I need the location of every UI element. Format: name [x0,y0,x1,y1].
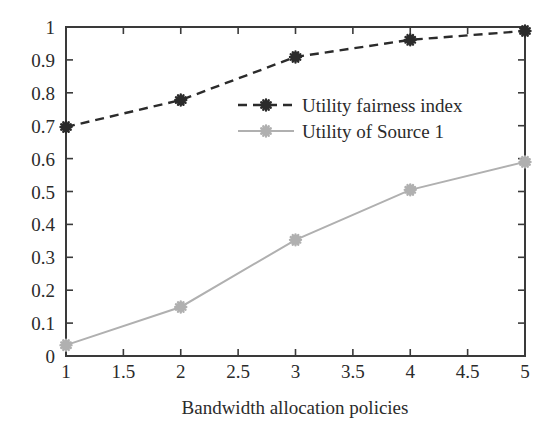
legend-entry-2: Utility of Source 1 [238,121,444,142]
y-axis-tick-labels: 00.10.20.30.40.50.60.70.80.91 [31,17,55,367]
y-tick-label: 0.9 [31,50,55,71]
y-tick-label: 0 [46,346,56,367]
plot-frame-rect [66,27,525,356]
x-tick-label: 3 [291,361,301,382]
y-tick-label: 0.4 [31,214,55,235]
x-tick-label: 4.5 [456,361,480,382]
data-series-layer [61,25,531,350]
x-tick-label: 2.5 [226,361,250,382]
axis-frame [66,27,525,356]
y-tick-label: 0.3 [31,247,55,268]
legend-marker-icon [261,100,272,111]
series-2 [61,156,531,350]
data-point-marker [175,301,186,312]
y-tick-label: 1 [46,17,56,38]
chart-container: 11.522.533.544.55 00.10.20.30.40.50.60.7… [0,0,557,427]
y-axis-ticks [66,27,525,356]
legend-label: Utility fairness index [302,95,463,116]
line-chart: 11.522.533.544.55 00.10.20.30.40.50.60.7… [0,0,557,427]
data-point-marker [61,122,72,133]
x-tick-label: 2 [176,361,186,382]
series-line [66,162,525,345]
x-axis-label: Bandwidth allocation policies [182,397,409,418]
y-tick-label: 0.5 [31,182,55,203]
legend-marker-icon [261,126,272,137]
y-tick-label: 0.6 [31,149,55,170]
x-tick-label: 3.5 [341,361,365,382]
x-axis-tick-labels: 11.522.533.544.55 [61,361,530,382]
y-tick-label: 0.2 [31,280,55,301]
y-tick-label: 0.7 [31,116,55,137]
series-1 [61,25,531,132]
x-axis-ticks [66,27,525,356]
data-point-marker [290,51,301,62]
legend-entry-1: Utility fairness index [238,95,463,116]
y-tick-label: 0.1 [31,313,55,334]
x-tick-label: 1.5 [112,361,136,382]
data-point-marker [61,340,72,351]
chart-legend: Utility fairness indexUtility of Source … [238,95,463,142]
x-tick-label: 4 [406,361,416,382]
x-tick-label: 1 [61,361,71,382]
legend-label: Utility of Source 1 [302,121,444,142]
data-point-marker [290,234,301,245]
data-point-marker [405,34,416,45]
y-tick-label: 0.8 [31,83,55,104]
data-point-marker [405,184,416,195]
x-tick-label: 5 [520,361,530,382]
data-point-marker [175,95,186,106]
